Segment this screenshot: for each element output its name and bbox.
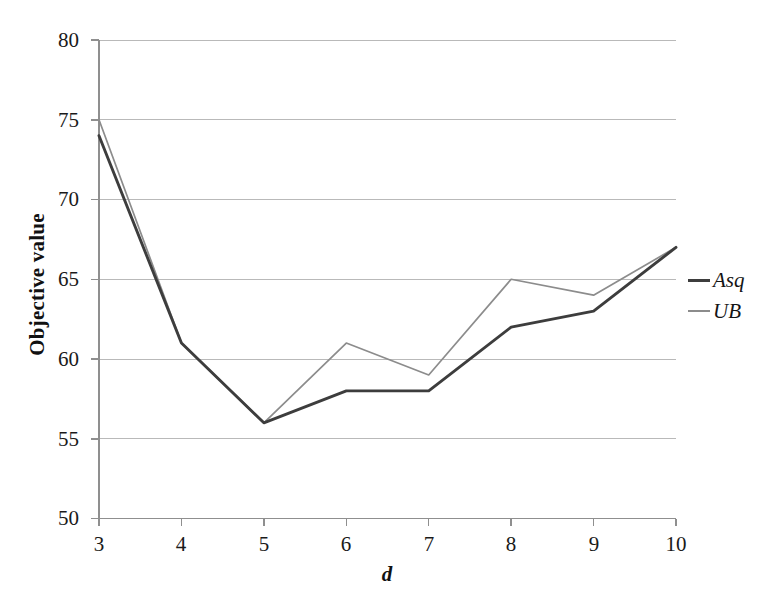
legend-swatch-ub-icon: [688, 310, 710, 312]
legend-swatch-asq-icon: [688, 279, 710, 282]
x-tick-label-5: 5: [244, 534, 284, 555]
y-tick-marks: [91, 40, 99, 519]
legend-item-ub: UB: [688, 299, 741, 323]
y-tick-label-75: 75: [33, 110, 79, 131]
series-line-ub: [99, 120, 676, 423]
y-axis-title: Objective value: [25, 185, 50, 385]
x-tick-label-8: 8: [491, 534, 531, 555]
gridlines: [99, 40, 676, 439]
y-tick-label-80: 80: [33, 30, 79, 51]
x-tick-marks: [99, 519, 676, 527]
x-tick-label-6: 6: [326, 534, 366, 555]
legend-label-ub: UB: [713, 299, 741, 324]
x-tick-label-10: 10: [656, 534, 696, 555]
chart-figure: 80 75 70 65 60 55 50 3 4 5 6 7 8 9 10 Ob…: [0, 0, 781, 613]
x-tick-label-7: 7: [409, 534, 449, 555]
chart-plot-area: [0, 0, 781, 613]
x-axis-title: d: [347, 562, 427, 587]
legend-label-asq: Asq: [713, 268, 745, 293]
legend-item-asq: Asq: [688, 268, 745, 292]
x-tick-label-3: 3: [79, 534, 119, 555]
x-tick-label-4: 4: [161, 534, 201, 555]
x-tick-label-9: 9: [574, 534, 614, 555]
y-tick-label-50: 50: [33, 508, 79, 529]
y-tick-label-55: 55: [33, 429, 79, 450]
